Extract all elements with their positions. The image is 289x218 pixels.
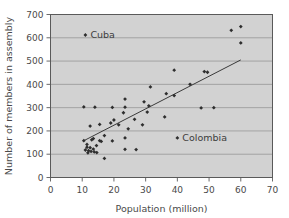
x-tick-label: 30 [140, 185, 152, 195]
x-tick-label: 20 [108, 185, 120, 195]
scatter-chart: CubaColombia 0100200300400500600700 0102… [0, 0, 289, 218]
point-annotation-label: Cuba [90, 29, 115, 40]
y-tick-label: 400 [26, 80, 43, 90]
point-annotation-label: Colombia [182, 132, 227, 143]
y-tick-label: 500 [26, 56, 43, 66]
x-tick-label: 60 [235, 185, 247, 195]
y-tick-label: 0 [38, 173, 44, 183]
x-tick-label: 10 [76, 185, 88, 195]
y-tickmarks-group [47, 15, 51, 178]
plot-background-group [51, 15, 273, 178]
x-tick-labels-group: 010203040506070 [48, 185, 279, 195]
y-tick-label: 600 [26, 33, 43, 43]
x-tick-label: 40 [172, 185, 184, 195]
x-axis-title: Population (million) [116, 203, 208, 214]
x-tick-label: 50 [203, 185, 215, 195]
y-tick-labels-group: 0100200300400500600700 [26, 10, 43, 183]
x-tickmarks-group [51, 178, 273, 182]
y-tick-label: 700 [26, 10, 43, 20]
y-tick-label: 300 [26, 103, 43, 113]
x-tick-label: 0 [48, 185, 54, 195]
plot-area-background [51, 15, 273, 178]
y-tick-label: 100 [26, 149, 43, 159]
x-tick-label: 70 [267, 185, 279, 195]
y-tick-label: 200 [26, 126, 43, 136]
y-axis-title: Number of members in assembly [3, 17, 14, 176]
